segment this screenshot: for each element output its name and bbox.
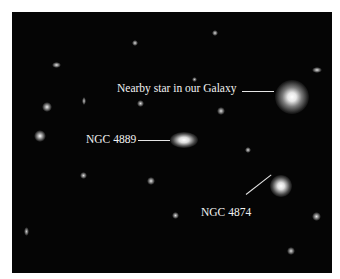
ngc-4874-leader-line bbox=[246, 174, 272, 194]
galaxy bbox=[172, 212, 179, 219]
ngc-4889-leader-line bbox=[138, 140, 170, 141]
galaxy bbox=[147, 177, 155, 185]
galaxy bbox=[245, 147, 251, 153]
galaxy bbox=[137, 100, 144, 107]
nearby-star-label: Nearby star in our Galaxy bbox=[117, 82, 236, 94]
astronomy-image: Nearby star in our Galaxy NGC 4889 NGC 4… bbox=[12, 12, 332, 273]
ngc-4889-label: NGC 4889 bbox=[86, 133, 136, 145]
galaxy bbox=[132, 40, 138, 46]
galaxy bbox=[80, 172, 87, 179]
ngc-4889-galaxy bbox=[170, 132, 198, 148]
galaxy bbox=[312, 67, 322, 73]
galaxy bbox=[42, 102, 52, 112]
nearby-star-object bbox=[275, 80, 309, 114]
galaxy bbox=[312, 212, 321, 221]
ngc-4874-label: NGC 4874 bbox=[201, 206, 251, 218]
galaxy bbox=[82, 97, 86, 105]
galaxy bbox=[52, 62, 61, 68]
galaxy bbox=[34, 130, 46, 142]
galaxy bbox=[212, 30, 218, 36]
galaxy bbox=[217, 107, 225, 115]
nearby-star-leader-line bbox=[242, 91, 274, 92]
galaxy bbox=[24, 227, 29, 236]
ngc-4874-galaxy bbox=[270, 175, 292, 197]
galaxy bbox=[287, 247, 295, 255]
